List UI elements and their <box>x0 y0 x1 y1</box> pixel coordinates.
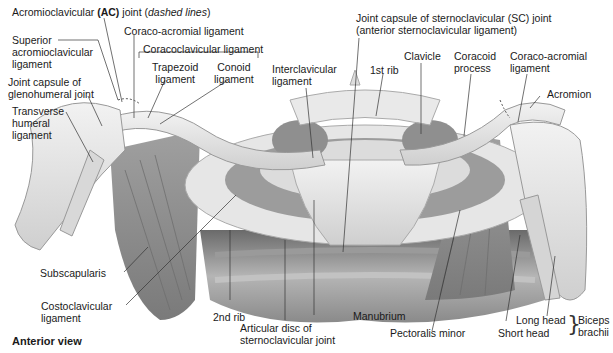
label-pectoralis-minor: Pectoralis minor <box>390 327 465 339</box>
label-trapezoid-ligament: Trapezoid ligament <box>152 61 198 85</box>
label-acromion: Acromion <box>547 88 591 100</box>
label-coracoclavicular-ligament: Coracoclavicular ligament <box>143 43 263 55</box>
label-ac-joint: Acromioclavicular (AC) joint (dashed lin… <box>12 6 210 18</box>
label-articular-disc: Articular disc of sternoclavicular joint <box>240 322 335 346</box>
label-first-rib: 1st rib <box>370 64 399 76</box>
label-costoclavicular-ligament: Costoclavicular ligament <box>41 300 112 324</box>
label-conoid-ligament: Conoid ligament <box>214 61 254 85</box>
label-manubrium: Manubrium <box>353 310 406 322</box>
left-subscapularis <box>110 130 200 320</box>
label-subscapularis: Subscapularis <box>40 267 106 279</box>
label-sc-joint-capsule: Joint capsule of sternoclavicular (SC) j… <box>356 12 552 36</box>
label-biceps-brachii: Biceps brachii <box>578 314 610 338</box>
label-superior-ac-ligament: Superior acromioclavicular ligament <box>12 34 93 70</box>
label-interclavicular-ligament: Interclavicular ligament <box>272 63 337 87</box>
label-coraco-acromial-ligament-right: Coraco-acromial ligament <box>510 50 587 74</box>
label-clavicle: Clavicle <box>404 50 441 62</box>
anatomy-figure: Acromioclavicular (AC) joint (dashed lin… <box>0 0 613 353</box>
label-coracoid-process: Coracoid process <box>454 50 496 74</box>
label-transverse-humeral-ligament: Transverse humeral ligament <box>12 105 64 141</box>
view-label: Anterior view <box>12 335 82 347</box>
label-glenohumeral-capsule: Joint capsule of glenohumeral joint <box>8 76 94 100</box>
label-long-head: Long head <box>516 314 566 326</box>
label-coraco-acromial-ligament-left: Coraco-acromial ligament <box>124 25 244 37</box>
label-short-head: Short head <box>498 327 549 339</box>
